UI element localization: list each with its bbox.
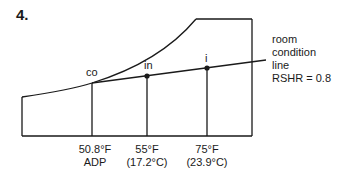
point-label-i: i — [205, 52, 207, 64]
in-point-marker — [144, 73, 149, 78]
i-point-marker — [204, 65, 209, 70]
axis-label-adp: 50.8°F ADP — [65, 143, 125, 169]
annotation-line-3: line — [272, 59, 331, 72]
axis-label-55f: 55°F (17.2°C) — [117, 143, 177, 169]
annotation-line-2: condition — [272, 46, 331, 59]
point-label-co: co — [86, 66, 98, 78]
axis-label-adp-temp: 50.8°F — [65, 143, 125, 156]
room-condition-annotation: room condition line RSHR = 0.8 — [272, 33, 331, 85]
room-condition-line — [92, 60, 266, 83]
axis-label-75f: 75°F (23.9°C) — [177, 143, 237, 169]
axis-label-55f-celsius: (17.2°C) — [117, 156, 177, 169]
point-label-in: in — [144, 59, 153, 71]
saturation-curve — [22, 19, 196, 97]
axis-label-55f-temp: 55°F — [117, 143, 177, 156]
axis-label-75f-temp: 75°F — [177, 143, 237, 156]
axis-label-75f-celsius: (23.9°C) — [177, 156, 237, 169]
axis-label-adp-name: ADP — [65, 156, 125, 169]
annotation-line-1: room — [272, 33, 331, 46]
annotation-line-4: RSHR = 0.8 — [272, 72, 331, 85]
